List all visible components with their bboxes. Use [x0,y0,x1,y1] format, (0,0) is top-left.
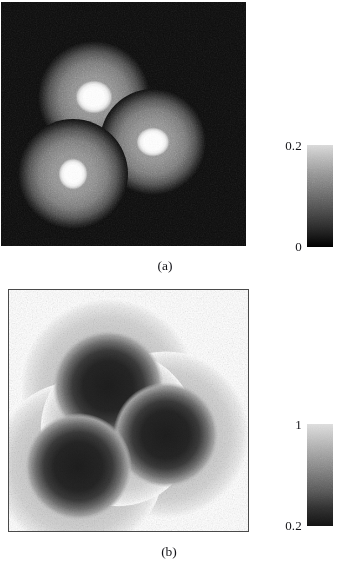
colorbar-panel-b: 1 0.2 [307,424,333,526]
panel-a [1,2,246,246]
panel-a-caption: (a) [120,258,210,274]
colorbar-a-min-label: 0 [295,239,302,255]
colorbar-panel-a: 0.2 0 [307,145,333,247]
colorbar-b-gradient [307,424,333,526]
colorbar-a-gradient [307,145,333,247]
panel-b-heatmap-image [8,289,249,532]
colorbar-b-max-label: 1 [295,417,302,433]
panel-b [8,289,249,532]
figure-root: 0.2 0 (a) [0,0,338,568]
colorbar-b-min-label: 0.2 [285,518,302,534]
panel-b-caption: (b) [124,544,214,560]
panel-a-heatmap-image [1,2,246,246]
colorbar-a-max-label: 0.2 [285,138,302,154]
